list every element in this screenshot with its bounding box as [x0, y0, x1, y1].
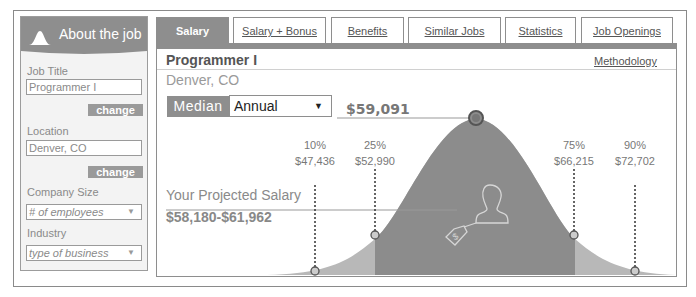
- percentile-10-label: 10%: [285, 137, 345, 153]
- percentile-75: 75% $66,215: [544, 137, 604, 169]
- tab-statistics[interactable]: Statistics: [505, 17, 576, 44]
- about-job-panel: About the job Job Title Programmer I cha…: [20, 16, 148, 271]
- company-size-select[interactable]: # of employees ▼: [26, 204, 142, 220]
- tab-salary[interactable]: Salary: [156, 17, 229, 44]
- methodology-link[interactable]: Methodology: [594, 55, 657, 67]
- median-badge: Median: [167, 96, 229, 117]
- about-job-header: About the job: [21, 17, 147, 51]
- location-input[interactable]: Denver, CO: [26, 140, 142, 156]
- chevron-down-icon: ▼: [127, 246, 135, 260]
- projected-salary-label: Your Projected Salary: [166, 187, 301, 203]
- pay-period-select[interactable]: Annual ▼: [229, 95, 332, 117]
- percentile-90: 90% $72,702: [605, 137, 665, 169]
- divider: [157, 69, 676, 70]
- percentile-25-label: 25%: [345, 137, 405, 153]
- percentile-10-value: $47,436: [285, 153, 345, 169]
- pay-period-value: Annual: [234, 98, 278, 114]
- tab-benefits[interactable]: Benefits: [331, 17, 404, 44]
- median-salary-value: $59,091: [346, 101, 410, 117]
- tab-salary-bonus[interactable]: Salary + Bonus: [233, 17, 326, 44]
- location-subheading: Denver, CO: [166, 72, 239, 88]
- change-job-title-button[interactable]: change: [88, 104, 143, 116]
- bell-curve-logo-icon: [29, 31, 51, 45]
- tab-job-openings[interactable]: Job Openings: [581, 17, 673, 44]
- job-title-input[interactable]: Programmer I: [26, 79, 142, 95]
- percentile-75-value: $66,215: [544, 153, 604, 169]
- percentile-25: 25% $52,990: [345, 137, 405, 169]
- job-title-heading: Programmer I: [166, 52, 257, 68]
- industry-label: Industry: [27, 227, 66, 239]
- industry-select[interactable]: type of business ▼: [26, 245, 142, 261]
- company-size-placeholder: # of employees: [29, 206, 104, 218]
- percentile-90-label: 90%: [605, 137, 665, 153]
- percentile-25-value: $52,990: [345, 153, 405, 169]
- salary-panel: $ Programmer I Methodology Denver, CO Me…: [156, 49, 677, 277]
- company-size-label: Company Size: [27, 186, 99, 198]
- about-job-title: About the job: [59, 26, 142, 42]
- industry-placeholder: type of business: [29, 247, 109, 259]
- chevron-down-icon: ▼: [314, 96, 323, 116]
- change-location-button[interactable]: change: [88, 166, 143, 178]
- percentile-10: 10% $47,436: [285, 137, 345, 169]
- chevron-down-icon: ▼: [127, 205, 135, 219]
- projected-salary-range: $58,180-$61,962: [166, 209, 272, 225]
- tab-similar-jobs[interactable]: Similar Jobs: [408, 17, 501, 44]
- job-title-label: Job Title: [27, 65, 68, 77]
- location-label: Location: [27, 125, 69, 137]
- percentile-90-value: $72,702: [605, 153, 665, 169]
- header-wave-decoration: [21, 47, 147, 55]
- person-price-tag-icon: $: [442, 179, 522, 249]
- percentile-75-label: 75%: [544, 137, 604, 153]
